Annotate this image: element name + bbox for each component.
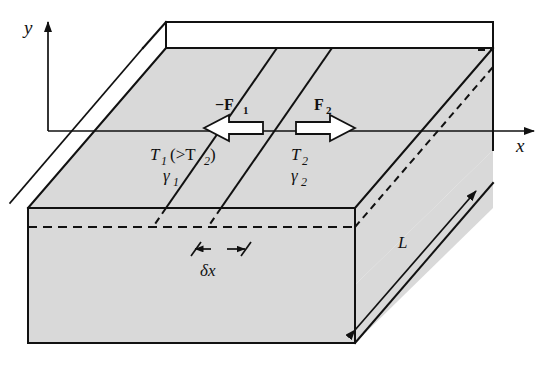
temperature-compare-open: (>T bbox=[170, 145, 196, 164]
force-f1-label: −F bbox=[215, 96, 234, 113]
temperature-t2-label: T bbox=[291, 145, 302, 164]
force-f2-label: F bbox=[314, 96, 324, 113]
force-f2-subscript: 2 bbox=[326, 104, 332, 116]
slab-heat-conduction-figure: y x −F 1 F 2 T 1 (>T 2 ) γ 1 T 2 bbox=[0, 0, 560, 367]
gamma2-subscript: 2 bbox=[301, 175, 307, 189]
force-f1-subscript: 1 bbox=[243, 104, 249, 116]
temperature-t2-subscript: 2 bbox=[302, 154, 308, 168]
gamma1-subscript: 1 bbox=[173, 175, 179, 189]
temperature-compare-close: ) bbox=[210, 145, 216, 164]
temperature-t1-label: T bbox=[150, 145, 161, 164]
physics-diagram-container: y x −F 1 F 2 T 1 (>T 2 ) γ 1 T 2 bbox=[0, 0, 560, 367]
slab-top-white-strip bbox=[166, 22, 493, 48]
slab-front-face bbox=[28, 208, 355, 343]
delta-x-label: δx bbox=[200, 261, 216, 280]
depth-label: L bbox=[397, 233, 407, 252]
y-axis-label: y bbox=[22, 17, 33, 38]
x-axis-label: x bbox=[515, 135, 525, 156]
